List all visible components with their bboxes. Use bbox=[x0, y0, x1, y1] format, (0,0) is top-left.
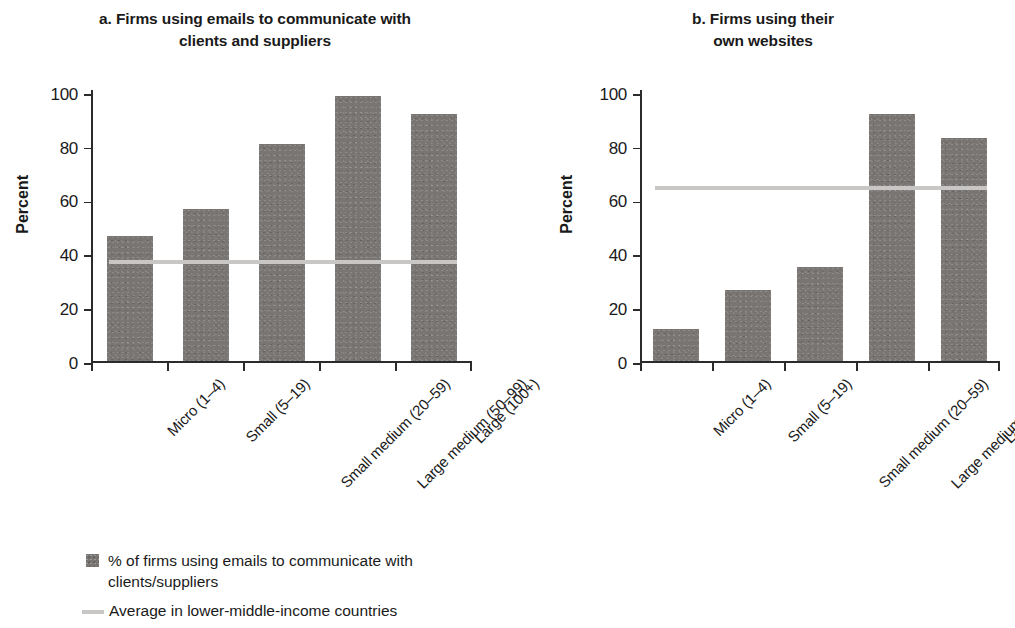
panel-a-xtick-5 bbox=[470, 363, 472, 371]
panel-a-ytick-100: 100 bbox=[84, 94, 91, 96]
legend-bar-label-line-1: % of firms using emails to communicate w… bbox=[108, 551, 506, 572]
panel-b-ytick-20: 20 bbox=[633, 309, 640, 311]
legend-bar-label: % of firms using emails to communicate w… bbox=[108, 551, 506, 592]
panel-a-y-axis-label: Percent bbox=[14, 175, 32, 234]
bar-small bbox=[725, 290, 771, 361]
panel-a-ytick-60: 60 bbox=[84, 202, 91, 204]
panel-b-ytick-80: 80 bbox=[633, 148, 640, 150]
xtick-label-micro: Micro (1–4) bbox=[710, 375, 774, 439]
panel-a-ytick-0: 0 bbox=[84, 363, 91, 365]
panel-a-xtick-0 bbox=[91, 363, 93, 371]
panel-a-title: a. Firms using emails to communicate wit… bbox=[40, 8, 470, 52]
xtick-label-micro: Micro (1–4) bbox=[164, 375, 228, 439]
panel-b-y-axis-label: Percent bbox=[558, 175, 576, 234]
xtick-label-small: Small (5–19) bbox=[784, 375, 854, 445]
panel-b-x-axis bbox=[640, 361, 1000, 363]
panel-a-title-line-2: clients and suppliers bbox=[40, 30, 470, 52]
panel-b-xtick-0 bbox=[640, 363, 642, 371]
panel-b-y-axis bbox=[640, 90, 642, 363]
panel-b-xtick-3 bbox=[856, 363, 858, 371]
panel-a-xtick-1 bbox=[167, 363, 169, 371]
legend-line-swatch-icon bbox=[82, 610, 104, 614]
panel-b-plot-area: 100 80 60 40 20 0 Micro (1–4) Small (5–1… bbox=[640, 94, 1000, 363]
panel-b-ytick-60: 60 bbox=[633, 202, 640, 204]
panel-b-xtick-1 bbox=[712, 363, 714, 371]
panel-b-xtick-2 bbox=[784, 363, 786, 371]
panel-a-ytick-80: 80 bbox=[84, 148, 91, 150]
bar-large bbox=[411, 114, 457, 361]
legend-bar-label-line-2: clients/suppliers bbox=[108, 572, 506, 593]
bar-micro bbox=[653, 329, 699, 361]
xtick-label-small: Small (5–19) bbox=[242, 375, 312, 445]
legend-item-bars: % of firms using emails to communicate w… bbox=[86, 551, 506, 592]
bar-large-medium bbox=[869, 114, 915, 361]
panel-a-title-line-1: a. Firms using emails to communicate wit… bbox=[40, 8, 470, 30]
bar-large bbox=[941, 138, 987, 361]
bar-small-medium bbox=[259, 144, 305, 362]
xtick-label-large: Large (100+) bbox=[1001, 375, 1015, 446]
legend-bar-swatch-icon bbox=[86, 554, 99, 567]
panel-a-legend: % of firms using emails to communicate w… bbox=[86, 551, 506, 628]
panel-b-ytick-100: 100 bbox=[633, 94, 640, 96]
panel-b-title-line-1: b. Firms using their bbox=[548, 8, 978, 30]
panel-a-y-axis bbox=[91, 90, 93, 363]
panel-b-title-line-2: own websites bbox=[548, 30, 978, 52]
bar-small-medium bbox=[797, 267, 843, 361]
average-line bbox=[109, 260, 457, 264]
average-line bbox=[655, 186, 987, 190]
chart-panel-a: a. Firms using emails to communicate wit… bbox=[0, 0, 507, 628]
bar-micro bbox=[107, 236, 153, 361]
panel-a-xtick-4 bbox=[395, 363, 397, 371]
panel-a-ytick-20: 20 bbox=[84, 309, 91, 311]
bar-small bbox=[183, 209, 229, 361]
panel-a-xtick-2 bbox=[243, 363, 245, 371]
panel-a-xtick-3 bbox=[319, 363, 321, 371]
chart-panel-b: b. Firms using their own websites Percen… bbox=[508, 0, 1015, 628]
panel-a-plot-area: 100 80 60 40 20 0 Micro (1–4) Small (5–1… bbox=[91, 94, 472, 363]
legend-average-label: Average in lower-middle-income countries bbox=[109, 601, 506, 622]
bar-large-medium bbox=[335, 96, 381, 361]
panel-a-x-axis bbox=[91, 361, 472, 363]
panel-b-ytick-40: 40 bbox=[633, 255, 640, 257]
panel-a-ytick-40: 40 bbox=[84, 255, 91, 257]
panel-b-xtick-5 bbox=[998, 363, 1000, 371]
panel-b-title: b. Firms using their own websites bbox=[548, 8, 978, 52]
panel-b-xtick-4 bbox=[928, 363, 930, 371]
legend-item-average: Average in lower-middle-income countries bbox=[86, 601, 506, 622]
panel-b-ytick-0: 0 bbox=[633, 363, 640, 365]
legend-average-label-line-1: Average in lower-middle-income countries bbox=[109, 601, 506, 622]
